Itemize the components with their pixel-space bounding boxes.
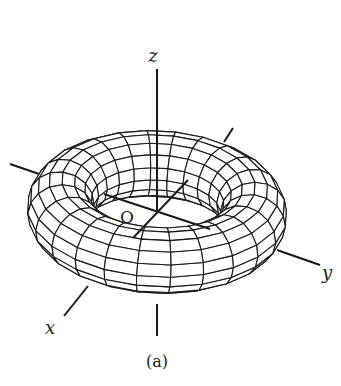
x-axis-label: x <box>45 317 55 338</box>
torus-facet <box>149 180 167 191</box>
negative-x-axis <box>224 128 233 142</box>
torus-facet <box>242 182 255 195</box>
torus-facet <box>171 250 204 265</box>
positive-x-axis <box>64 286 88 316</box>
torus-facet <box>132 155 151 169</box>
torus-facet <box>150 168 168 181</box>
torus-facet <box>150 155 169 169</box>
y-axis-label: y <box>321 262 333 283</box>
figure-caption: (a) <box>146 352 168 371</box>
torus-figure: z x y O (a) <box>0 0 341 386</box>
torus-facet <box>150 143 172 156</box>
z-axis-label: z <box>147 45 158 66</box>
positive-y-axis <box>277 250 320 265</box>
torus-facet <box>139 239 170 252</box>
negative-y-axis <box>10 164 42 175</box>
origin-label: O <box>120 207 134 227</box>
torus-facet <box>134 168 151 181</box>
torus-diagram: z x y O (a) <box>0 0 341 386</box>
torus-facet <box>137 263 171 277</box>
torus-facet <box>138 251 171 265</box>
